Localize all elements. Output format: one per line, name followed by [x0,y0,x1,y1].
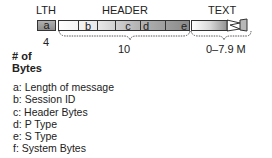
header-segment-e: e [166,21,189,30]
header-label: HEADER [102,5,148,16]
legend-item: e: S Type [13,130,114,142]
byte-braces [0,30,272,44]
legend-item: b: Session ID [13,93,114,105]
header-segment-d: d [141,21,166,30]
lth-byte-count: 4 [43,37,49,48]
header-segment-blank [59,21,79,30]
legend-item: a: Length of message [13,81,114,93]
legend-item: d: P Type [13,118,114,130]
bytes-axis-label: # of Bytes [12,50,42,74]
bytes-axis-label-line2: Bytes [12,62,42,74]
legend: a: Length of message b: Session ID c: He… [13,81,114,155]
legend-item: c: Header Bytes [13,106,114,118]
legend-item: f: System Bytes [13,142,114,154]
header-byte-count: 10 [118,44,130,55]
text-byte-count: 0–7.9 M [206,44,246,55]
bytes-axis-label-line1: # of [12,50,42,62]
header-segment-b: b [79,21,98,30]
lth-label: LTH [36,5,56,16]
header-segment-blank2 [98,21,116,30]
header-segment-c: c [116,21,141,30]
